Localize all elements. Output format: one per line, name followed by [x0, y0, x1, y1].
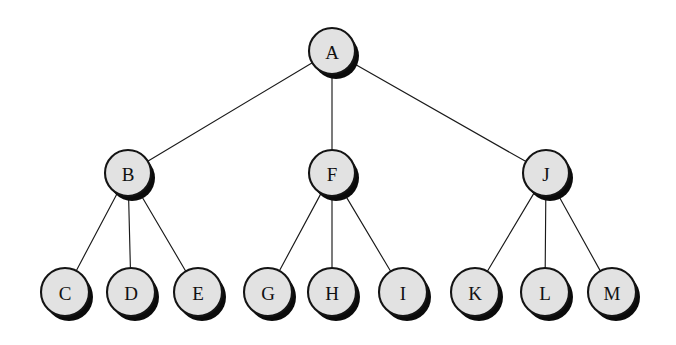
tree-edge — [545, 195, 546, 269]
tree-node-a[interactable]: A — [309, 28, 359, 79]
node-label-c: C — [59, 283, 72, 304]
node-label-b: B — [122, 164, 135, 185]
tree-diagram-canvas: ABFJCDEGHIKLM — [0, 0, 676, 345]
tree-edge — [487, 192, 535, 272]
tree-node-d[interactable]: D — [107, 268, 159, 321]
node-label-h: H — [325, 283, 339, 304]
node-label-j: J — [542, 164, 549, 185]
tree-node-m[interactable]: M — [588, 268, 640, 321]
tree-edge — [147, 62, 313, 161]
tree-node-b[interactable]: B — [105, 150, 155, 201]
tree-edge — [129, 195, 131, 269]
node-label-i: I — [400, 283, 406, 304]
node-label-a: A — [325, 42, 339, 63]
node-label-e: E — [192, 283, 204, 304]
tree-node-g[interactable]: G — [244, 268, 296, 321]
node-label-f: F — [327, 164, 338, 185]
tree-node-j[interactable]: J — [523, 150, 573, 201]
node-label-k: K — [468, 283, 482, 304]
node-label-g: G — [261, 283, 275, 304]
node-label-d: D — [124, 283, 138, 304]
tree-diagram: ABFJCDEGHIKLM — [0, 0, 676, 345]
tree-edge — [343, 192, 391, 272]
tree-node-k[interactable]: K — [451, 268, 503, 321]
tree-node-l[interactable]: L — [521, 268, 573, 321]
node-label-l: L — [539, 283, 551, 304]
tree-node-e[interactable]: E — [174, 268, 226, 321]
tree-edge — [139, 192, 186, 272]
nodes-layer: ABFJCDEGHIKLM — [41, 28, 640, 321]
node-label-m: M — [604, 283, 621, 304]
tree-edge — [351, 62, 527, 162]
tree-edge — [557, 192, 601, 272]
tree-node-h[interactable]: H — [308, 268, 360, 321]
tree-edge — [76, 192, 118, 271]
tree-node-f[interactable]: F — [309, 150, 359, 201]
tree-node-i[interactable]: I — [379, 268, 431, 321]
tree-node-c[interactable]: C — [41, 268, 93, 321]
tree-edge — [279, 192, 322, 271]
